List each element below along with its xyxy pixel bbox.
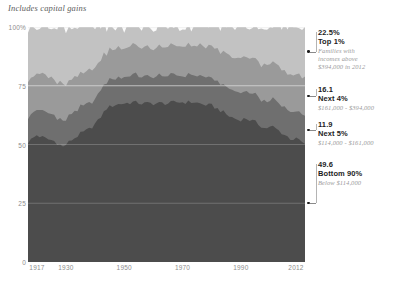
annotation-bottom-90: 49.6Bottom 90%Below $114,000 [318, 160, 394, 187]
annotation-detail: incomes above [318, 55, 394, 63]
annotation-leader-line [316, 32, 317, 52]
y-axis-tick-label: 50 [2, 141, 26, 148]
annotation-leader-line [316, 124, 317, 130]
annotation-value: 22.5% [318, 28, 394, 37]
annotation-leader-line [316, 164, 317, 203]
annotation-detail: Families with [318, 47, 394, 55]
annotation-next-4: 16.1Next 4%$161,000 - $394,000 [318, 85, 394, 112]
annotation-group-label: Top 1% [318, 37, 394, 47]
annotation-group-label: Next 4% [318, 94, 394, 104]
x-axis-tick-label: 1950 [117, 264, 132, 271]
annotation-group-label: Next 5% [318, 129, 394, 139]
chart-plot-area [28, 27, 305, 262]
annotation-detail: $114,000 - $161,000 [318, 139, 394, 147]
x-axis-tick-label: 1970 [175, 264, 190, 271]
annotation-leader-line [310, 130, 316, 131]
annotation-top-1: 22.5%Top 1%Families withincomes above$39… [318, 28, 394, 71]
annotation-next-5: 11.9Next 5%$114,000 - $161,000 [318, 120, 394, 147]
annotation-leader-line [310, 203, 316, 204]
annotation-leader-line [310, 96, 316, 97]
annotation-value: 49.6 [318, 160, 394, 169]
y-axis: 100%7550250 [0, 27, 26, 262]
x-axis-tick-label: 1990 [233, 264, 248, 271]
x-axis-tick-label: 2012 [288, 264, 303, 271]
x-axis: 191719301950197019902012 [28, 264, 305, 278]
stacked-area-chart [28, 27, 305, 262]
y-axis-tick-label: 100% [2, 24, 26, 31]
x-axis-tick-label: 1930 [58, 264, 73, 271]
annotation-value: 11.9 [318, 120, 394, 129]
x-axis-tick-label: 1917 [29, 264, 44, 271]
annotation-detail: Below $114,000 [318, 179, 394, 187]
annotation-leader-line [310, 52, 316, 53]
y-axis-tick-label: 75 [2, 82, 26, 89]
y-axis-tick-label: 25 [2, 200, 26, 207]
y-axis-tick-label: 0 [2, 259, 26, 266]
annotation-detail: $161,000 - $394,000 [318, 104, 394, 112]
annotation-value: 16.1 [318, 85, 394, 94]
annotation-group-label: Bottom 90% [318, 169, 394, 179]
annotation-detail: $394,000 in 2012 [318, 63, 394, 71]
annotation-leader-line [316, 89, 317, 96]
chart-subtitle: Includes capital gains [8, 3, 86, 13]
